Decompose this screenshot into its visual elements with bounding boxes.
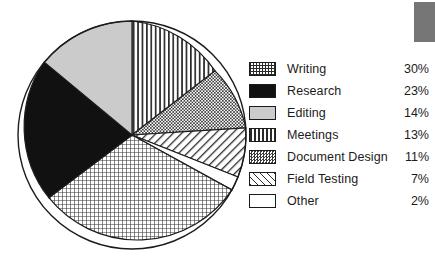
legend-swatch-editing-icon — [249, 106, 276, 120]
legend-value-document-design: 11% — [393, 150, 429, 164]
legend-value-writing: 30% — [393, 62, 429, 76]
legend-label-research: Research — [287, 84, 393, 98]
legend-swatch-field-testing-icon — [249, 172, 276, 186]
pie-svg — [14, 20, 252, 254]
legend-value-other: 2% — [393, 194, 429, 208]
legend-item-document-design: Document Design 11% — [249, 146, 429, 168]
legend-label-writing: Writing — [287, 62, 393, 76]
legend-item-field-testing: Field Testing 7% — [249, 168, 429, 190]
corner-gray-block — [414, 2, 435, 42]
legend-swatch-research-icon — [249, 84, 276, 98]
pie-graphic — [14, 20, 252, 254]
legend-value-meetings: 13% — [393, 128, 429, 142]
legend-value-editing: 14% — [393, 106, 429, 120]
legend-item-other: Other 2% — [249, 190, 429, 212]
legend-swatch-document-design-icon — [249, 150, 276, 164]
legend-label-editing: Editing — [287, 106, 393, 120]
legend-value-field-testing: 7% — [393, 172, 429, 186]
chart-legend: Writing 30% Research 23% Editing 14% Mee… — [249, 58, 429, 212]
legend-swatch-meetings-icon — [249, 128, 276, 142]
legend-swatch-writing-icon — [249, 62, 276, 76]
legend-label-other: Other — [287, 194, 393, 208]
legend-label-meetings: Meetings — [287, 128, 393, 142]
legend-item-editing: Editing 14% — [249, 102, 429, 124]
legend-value-research: 23% — [393, 84, 429, 98]
legend-label-document-design: Document Design — [287, 150, 393, 164]
legend-item-writing: Writing 30% — [249, 58, 429, 80]
legend-item-meetings: Meetings 13% — [249, 124, 429, 146]
legend-item-research: Research 23% — [249, 80, 429, 102]
pie-chart-figure: Writing 30% Research 23% Editing 14% Mee… — [0, 0, 435, 265]
legend-label-field-testing: Field Testing — [287, 172, 393, 186]
legend-swatch-other-icon — [249, 194, 276, 208]
